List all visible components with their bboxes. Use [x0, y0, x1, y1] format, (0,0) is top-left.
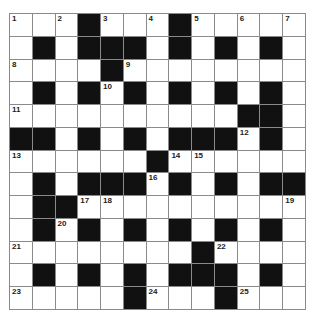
answer-cell[interactable] — [33, 14, 55, 36]
answer-cell[interactable]: 22 — [215, 242, 237, 264]
answer-cell[interactable] — [147, 128, 169, 150]
answer-cell[interactable] — [238, 37, 260, 59]
answer-cell[interactable] — [215, 14, 237, 36]
answer-cell[interactable] — [101, 287, 123, 309]
answer-cell[interactable] — [283, 151, 305, 173]
answer-cell[interactable]: 3 — [101, 14, 123, 36]
answer-cell[interactable] — [56, 60, 78, 82]
answer-cell[interactable]: 4 — [147, 14, 169, 36]
answer-cell[interactable]: 10 — [101, 82, 123, 104]
answer-cell[interactable] — [260, 196, 282, 218]
answer-cell[interactable] — [260, 287, 282, 309]
answer-cell[interactable] — [124, 105, 146, 127]
answer-cell[interactable] — [56, 128, 78, 150]
answer-cell[interactable] — [283, 219, 305, 241]
answer-cell[interactable] — [56, 287, 78, 309]
answer-cell[interactable] — [215, 60, 237, 82]
answer-cell[interactable] — [101, 105, 123, 127]
answer-cell[interactable] — [147, 242, 169, 264]
answer-cell[interactable] — [101, 242, 123, 264]
answer-cell[interactable] — [283, 287, 305, 309]
answer-cell[interactable] — [56, 242, 78, 264]
answer-cell[interactable] — [260, 60, 282, 82]
answer-cell[interactable] — [169, 196, 191, 218]
answer-cell[interactable] — [238, 151, 260, 173]
answer-cell[interactable] — [215, 105, 237, 127]
answer-cell[interactable] — [147, 219, 169, 241]
answer-cell[interactable] — [283, 37, 305, 59]
answer-cell[interactable]: 17 — [78, 196, 100, 218]
answer-cell[interactable] — [147, 37, 169, 59]
answer-cell[interactable] — [33, 60, 55, 82]
answer-cell[interactable] — [192, 105, 214, 127]
answer-cell[interactable]: 5 — [192, 14, 214, 36]
answer-cell[interactable] — [169, 105, 191, 127]
answer-cell[interactable] — [10, 37, 32, 59]
answer-cell[interactable]: 7 — [283, 14, 305, 36]
answer-cell[interactable] — [238, 242, 260, 264]
answer-cell[interactable]: 20 — [56, 219, 78, 241]
answer-cell[interactable] — [33, 242, 55, 264]
answer-cell[interactable] — [124, 14, 146, 36]
answer-cell[interactable] — [192, 173, 214, 195]
answer-cell[interactable] — [101, 151, 123, 173]
answer-cell[interactable] — [33, 287, 55, 309]
answer-cell[interactable] — [56, 151, 78, 173]
answer-cell[interactable] — [238, 264, 260, 286]
answer-cell[interactable] — [78, 151, 100, 173]
answer-cell[interactable] — [101, 219, 123, 241]
answer-cell[interactable] — [192, 287, 214, 309]
answer-cell[interactable] — [215, 151, 237, 173]
answer-cell[interactable] — [78, 242, 100, 264]
answer-cell[interactable] — [238, 60, 260, 82]
answer-cell[interactable] — [10, 196, 32, 218]
answer-cell[interactable] — [283, 242, 305, 264]
answer-cell[interactable] — [147, 105, 169, 127]
answer-cell[interactable] — [238, 196, 260, 218]
answer-cell[interactable] — [124, 196, 146, 218]
answer-cell[interactable]: 12 — [238, 128, 260, 150]
answer-cell[interactable] — [215, 196, 237, 218]
answer-cell[interactable] — [78, 105, 100, 127]
answer-cell[interactable] — [260, 151, 282, 173]
answer-cell[interactable] — [283, 82, 305, 104]
answer-cell[interactable]: 8 — [10, 60, 32, 82]
answer-cell[interactable] — [192, 37, 214, 59]
answer-cell[interactable] — [169, 287, 191, 309]
answer-cell[interactable] — [147, 82, 169, 104]
answer-cell[interactable] — [169, 242, 191, 264]
answer-cell[interactable] — [56, 82, 78, 104]
answer-cell[interactable] — [101, 128, 123, 150]
answer-cell[interactable]: 18 — [101, 196, 123, 218]
answer-cell[interactable] — [283, 264, 305, 286]
answer-cell[interactable] — [147, 60, 169, 82]
answer-cell[interactable] — [238, 82, 260, 104]
answer-cell[interactable] — [238, 173, 260, 195]
answer-cell[interactable] — [192, 219, 214, 241]
answer-cell[interactable] — [238, 219, 260, 241]
answer-cell[interactable] — [10, 264, 32, 286]
answer-cell[interactable]: 1 — [10, 14, 32, 36]
answer-cell[interactable] — [169, 60, 191, 82]
answer-cell[interactable]: 15 — [192, 151, 214, 173]
answer-cell[interactable]: 14 — [169, 151, 191, 173]
answer-cell[interactable]: 23 — [10, 287, 32, 309]
answer-cell[interactable] — [147, 264, 169, 286]
answer-cell[interactable] — [33, 105, 55, 127]
answer-cell[interactable] — [192, 196, 214, 218]
answer-cell[interactable] — [124, 151, 146, 173]
answer-cell[interactable] — [56, 105, 78, 127]
answer-cell[interactable] — [124, 242, 146, 264]
answer-cell[interactable] — [56, 37, 78, 59]
answer-cell[interactable]: 9 — [124, 60, 146, 82]
answer-cell[interactable] — [283, 128, 305, 150]
answer-cell[interactable]: 6 — [238, 14, 260, 36]
answer-cell[interactable]: 11 — [10, 105, 32, 127]
answer-cell[interactable]: 24 — [147, 287, 169, 309]
answer-cell[interactable] — [10, 219, 32, 241]
answer-cell[interactable]: 2 — [56, 14, 78, 36]
answer-cell[interactable] — [192, 60, 214, 82]
answer-cell[interactable]: 21 — [10, 242, 32, 264]
answer-cell[interactable] — [260, 14, 282, 36]
answer-cell[interactable] — [10, 173, 32, 195]
